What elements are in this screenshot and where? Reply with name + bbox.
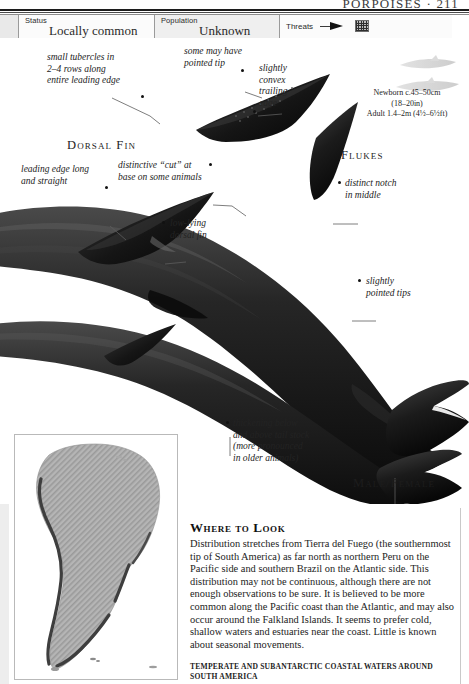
population-cell: Population Unknown	[155, 15, 280, 39]
where-to-look-body: Distribution stretches from Tierra del F…	[190, 538, 456, 651]
net-icon	[355, 20, 369, 32]
threat-icon-group	[320, 20, 369, 32]
silhouette-swimming-small	[400, 55, 456, 68]
section-label-dorsal-fin: Dorsal Fin	[67, 138, 136, 153]
leader-tubercles	[112, 98, 160, 124]
size-information: Newborn c.45–50cm (18–20in) Adult 1.4–2m…	[352, 88, 462, 120]
header-rule-thick	[0, 9, 469, 11]
field-guide-page: PORPOISES · 211 Status Locally common Po…	[0, 0, 469, 684]
size-newborn: Newborn c.45–50cm	[352, 88, 462, 99]
section-label-male-female: Male/Female	[353, 476, 435, 491]
size-adult: Adult 1.4–2m (4½–6½ft)	[352, 109, 462, 120]
population-value: Unknown	[161, 24, 250, 37]
where-to-look-caption: Temperate and subantarctic coastal water…	[190, 662, 456, 681]
threats-label: Threats	[286, 22, 313, 31]
status-bar-spacer	[0, 15, 19, 39]
size-newborn-imperial: (18–20in)	[352, 99, 462, 110]
threats-cell: Threats	[280, 15, 452, 39]
status-cell: Status Locally common	[19, 15, 155, 39]
where-to-look-section: Where to Look Distribution stretches fro…	[190, 520, 456, 682]
annotation-low-lying: low-lying dorsal fin	[170, 218, 246, 241]
annotation-pointed-tips: slightly pointed tips	[366, 276, 436, 299]
map-scotia-arc	[149, 666, 157, 668]
population-label: Population	[161, 16, 197, 25]
annotation-thickening: thickening below and above tail stock (m…	[233, 418, 353, 464]
annotation-leading-edge: leading edge long and straight	[21, 164, 117, 187]
annotation-tubercles: small tubercles in 2–4 rows along entire…	[47, 52, 187, 87]
leader-cut	[213, 205, 246, 216]
where-to-look-heading: Where to Look	[190, 520, 456, 536]
harpoon-icon	[320, 22, 346, 31]
status-label: Status	[25, 16, 47, 25]
annotation-convex-trailing: slightly convex trailing edge	[259, 63, 315, 109]
map-tierra-del-fuego	[51, 667, 59, 671]
header-rule-thin	[0, 12, 469, 13]
map-svg	[15, 435, 175, 677]
annotation-distinct-notch: distinct notch in middle	[345, 178, 425, 201]
distribution-map	[14, 434, 178, 680]
page-vertical-rule	[460, 508, 461, 684]
status-value: Locally common	[25, 24, 137, 37]
status-bar: Status Locally common Population Unknown…	[0, 14, 469, 40]
section-label-flukes: Flukes	[341, 148, 384, 163]
